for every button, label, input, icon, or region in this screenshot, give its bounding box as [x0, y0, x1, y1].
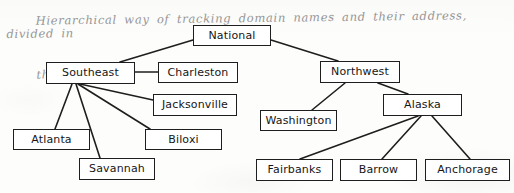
tree-node-label: Atlanta: [31, 134, 72, 146]
tree-edge-southeast-to-atlanta: [55, 84, 72, 129]
tree-node-savannah[interactable]: Savannah: [79, 158, 155, 180]
tree-node-jacksonville[interactable]: Jacksonville: [153, 94, 237, 116]
tree-node-label: National: [208, 30, 255, 42]
tree-edge-northwest-to-alaska: [378, 83, 408, 94]
tree-node-label: Barrow: [359, 164, 399, 176]
tree-edge-northwest-to-washington: [312, 83, 345, 110]
tree-node-atlanta[interactable]: Atlanta: [13, 129, 90, 150]
tree-node-label: Biloxi: [168, 134, 199, 146]
tree-node-label: Anchorage: [437, 164, 498, 176]
tree-node-charleston[interactable]: Charleston: [158, 62, 238, 83]
tree-node-barrow[interactable]: Barrow: [340, 159, 417, 181]
tree-node-label: Southeast: [62, 67, 119, 79]
tree-node-fairbanks[interactable]: Fairbanks: [256, 159, 333, 181]
tree-node-alaska[interactable]: Alaska: [383, 94, 462, 116]
tree-edge-national-to-southeast: [120, 40, 193, 62]
tree-node-label: Fairbanks: [268, 164, 322, 176]
tree-node-label: Charleston: [168, 67, 229, 79]
tree-edge-alaska-to-anchorage: [432, 116, 470, 159]
tree-node-southeast[interactable]: Southeast: [46, 62, 135, 84]
tree-node-label: Washington: [265, 115, 331, 127]
tree-edge-national-to-northwest: [271, 40, 338, 61]
tree-node-label: Northwest: [331, 66, 389, 78]
tree-node-label: Alaska: [404, 99, 441, 111]
tree-node-biloxi[interactable]: Biloxi: [145, 129, 222, 150]
scanned-page: Hierarchical way of tracking domain name…: [0, 0, 514, 193]
tree-node-label: Savannah: [89, 163, 145, 175]
hierarchical-tree-diagram: NationalSoutheastCharlestonJacksonvilleA…: [0, 0, 514, 193]
tree-node-anchorage[interactable]: Anchorage: [425, 159, 510, 181]
tree-node-northwest[interactable]: Northwest: [320, 61, 400, 83]
tree-node-washington[interactable]: Washington: [260, 110, 337, 131]
tree-node-label: Jacksonville: [162, 99, 228, 111]
tree-node-national[interactable]: National: [193, 25, 271, 46]
